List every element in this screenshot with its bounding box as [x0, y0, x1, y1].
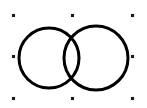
handle-bottom-right[interactable]	[130, 96, 135, 101]
handle-top-right[interactable]	[130, 13, 135, 18]
handle-bottom-center[interactable]	[70, 96, 75, 101]
handle-middle-right[interactable]	[130, 54, 135, 59]
handle-top-left[interactable]	[11, 13, 16, 18]
handle-top-center[interactable]	[70, 13, 75, 18]
handle-middle-left[interactable]	[11, 54, 16, 59]
drawing-canvas[interactable]	[0, 0, 147, 108]
selection-handles-group	[0, 0, 147, 108]
handle-bottom-left[interactable]	[11, 96, 16, 101]
